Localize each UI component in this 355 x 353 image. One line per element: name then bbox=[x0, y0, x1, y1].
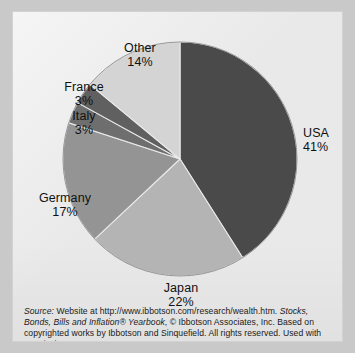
source-caption: Source: Website at http://www.ibbotson.c… bbox=[24, 306, 332, 342]
pie-label-germany-value: 17% bbox=[25, 206, 105, 220]
source-caption-source-word: Source: bbox=[24, 306, 54, 316]
pie-label-france-name: France bbox=[64, 80, 104, 94]
pie-slices bbox=[63, 42, 297, 276]
pie-label-usa: USA 41% bbox=[303, 127, 343, 154]
pie-label-other: Other 14% bbox=[109, 42, 171, 69]
pie-chart: Other 14% France 3% Italy 3% Germany 17%… bbox=[13, 12, 343, 297]
pie-label-france-value: 3% bbox=[51, 95, 117, 109]
figure-panel: Other 14% France 3% Italy 3% Germany 17%… bbox=[12, 11, 343, 342]
pie-label-italy-value: 3% bbox=[51, 124, 117, 138]
source-caption-line3: works by Ibbotson and Sinquefield. All r… bbox=[24, 328, 321, 342]
pie-label-japan-name: Japan bbox=[164, 281, 199, 295]
pie-label-japan: Japan 22% bbox=[146, 282, 216, 309]
pie-label-italy-name: Italy bbox=[72, 109, 95, 123]
pie-label-france: France 3% bbox=[51, 81, 117, 108]
source-caption-line1: Website at http://www.ibbotson.com/resea… bbox=[54, 306, 280, 316]
pie-label-other-value: 14% bbox=[109, 56, 171, 70]
pie-label-usa-value: 41% bbox=[303, 141, 343, 155]
pie-label-italy: Italy 3% bbox=[51, 110, 117, 137]
pie-label-germany: Germany 17% bbox=[25, 192, 105, 219]
pie-label-other-name: Other bbox=[124, 41, 156, 55]
pie-chart-svg bbox=[13, 12, 343, 297]
pie-label-usa-name: USA bbox=[303, 126, 329, 140]
pie-label-germany-name: Germany bbox=[39, 191, 91, 205]
source-caption-title-part2: Bills and Inflation® Yearbook bbox=[54, 317, 165, 327]
